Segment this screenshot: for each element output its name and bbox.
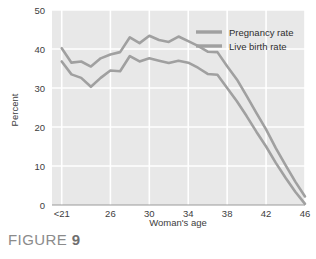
y-tick-label: 10 (34, 161, 45, 172)
y-tick-label: 20 (34, 122, 45, 133)
x-tick-label: 46 (300, 208, 311, 219)
chart-svg: 01020304050 <21263034384246 Percent Woma… (0, 0, 316, 228)
y-axis-tick-labels: 01020304050 (34, 5, 45, 211)
x-tick-label: <21 (54, 208, 70, 219)
figure-caption-word: FIGURE (8, 231, 67, 248)
y-tick-label: 50 (34, 5, 45, 16)
x-tick-label: 26 (105, 208, 116, 219)
line-chart: 01020304050 <21263034384246 Percent Woma… (0, 0, 316, 228)
x-tick-label: 38 (222, 208, 233, 219)
figure-caption: FIGURE 9 (8, 231, 80, 248)
x-axis-title: Woman's age (149, 217, 207, 228)
legend-label-1: Live birth rate (229, 41, 287, 52)
y-tick-label: 0 (40, 200, 45, 211)
y-axis-title: Percent (9, 93, 20, 126)
y-tick-label: 30 (34, 83, 45, 94)
y-tick-label: 40 (34, 44, 45, 55)
figure-caption-number: 9 (72, 231, 81, 248)
legend-label-0: Pregnancy rate (229, 27, 293, 38)
plot-background (52, 10, 305, 205)
x-tick-label: 42 (261, 208, 272, 219)
figure-container: 01020304050 <21263034384246 Percent Woma… (0, 0, 316, 259)
